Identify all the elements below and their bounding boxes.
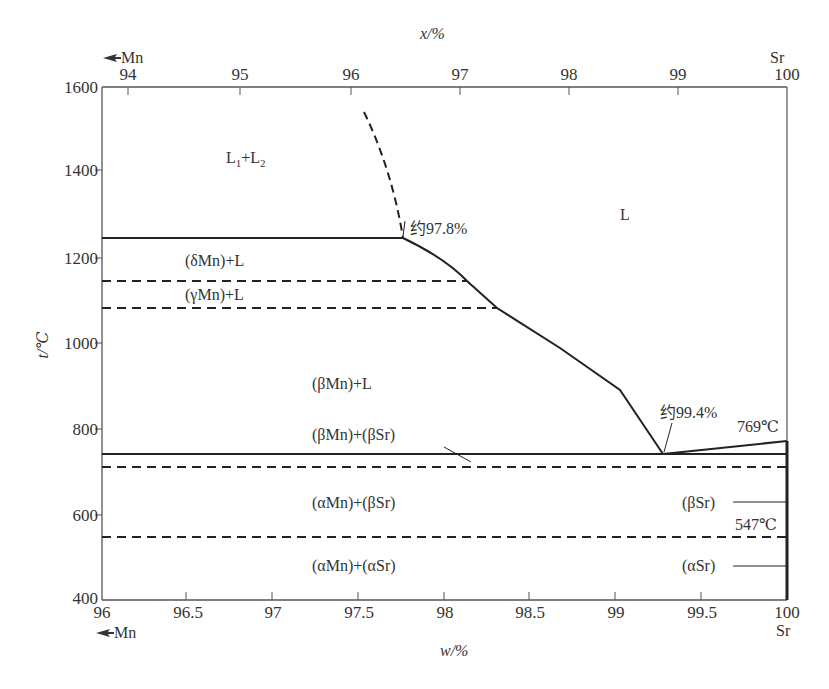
- svg-text:98: 98: [561, 65, 578, 84]
- bottom-axis-ticks: [186, 592, 701, 600]
- top-axis: x/% Mn Sr 94 95 96 97 98 99 100: [103, 25, 800, 84]
- leader-eutectic: [664, 423, 672, 452]
- mn-bottom-arrow: Mn: [96, 624, 136, 641]
- svg-text:1000: 1000: [64, 334, 98, 353]
- top-axis-title: x/%: [419, 25, 445, 42]
- y-axis: 1600 1400 1200 1000 800 600 400 t/℃: [34, 78, 98, 608]
- svg-text:99.5: 99.5: [687, 603, 717, 622]
- svg-text:800: 800: [73, 420, 99, 439]
- svg-text:94: 94: [120, 65, 138, 84]
- monotectic-annotation: 约97.8%: [410, 220, 467, 237]
- bottom-axis-title: w/%: [440, 642, 468, 659]
- arrow-left-icon: [96, 629, 114, 637]
- eutectic-annotation: 约99.4%: [660, 404, 717, 421]
- mn-top-label: Mn: [121, 49, 143, 66]
- sr-melting-annotation: 769℃: [737, 418, 779, 435]
- region-alpha-sr: (αSr): [682, 557, 715, 575]
- svg-text:98: 98: [437, 603, 454, 622]
- mn-bottom-label: Mn: [114, 624, 136, 641]
- region-gamma-mn-l: (γMn)+L: [185, 286, 244, 304]
- sr-transform-annotation: 547℃: [735, 516, 777, 533]
- y-axis-title: t/℃: [34, 332, 51, 359]
- svg-text:1600: 1600: [64, 78, 98, 97]
- region-labels: L1+L2 L (δMn)+L (γMn)+L (βMn)+L (βMn)+(β…: [185, 149, 715, 575]
- sr-top-label: Sr: [770, 49, 785, 66]
- miscibility-gap-curve: [364, 112, 403, 238]
- svg-text:96: 96: [343, 65, 360, 84]
- svg-text:1400: 1400: [64, 161, 98, 180]
- region-l1-l2: L1+L2: [226, 149, 266, 169]
- annotations: 约97.8% 约99.4% 769℃ 547℃: [410, 220, 779, 533]
- svg-text:100: 100: [774, 65, 800, 84]
- region-alpha-mn-alpha-sr: (αMn)+(αSr): [312, 557, 396, 575]
- sr-bottom-label: Sr: [776, 622, 791, 639]
- region-beta-mn-l: (βMn)+L: [312, 375, 372, 393]
- phase-diagram: x/% Mn Sr 94 95 96 97 98 99 100 1600 140…: [0, 0, 829, 689]
- arrow-left-icon: [103, 54, 121, 62]
- svg-text:99: 99: [608, 603, 625, 622]
- region-liquid: L: [620, 206, 630, 223]
- svg-text:97: 97: [452, 65, 470, 84]
- plot-frame: [102, 87, 787, 600]
- liquidus-sr-side: [663, 441, 787, 454]
- region-delta-mn-l: (δMn)+L: [185, 252, 244, 270]
- svg-text:1200: 1200: [64, 249, 98, 268]
- region-beta-mn-beta-sr: (βMn)+(βSr): [312, 426, 395, 444]
- svg-text:100: 100: [774, 603, 800, 622]
- top-axis-ticks: [128, 87, 678, 95]
- svg-text:96: 96: [94, 603, 111, 622]
- phase-boundaries: [102, 87, 787, 600]
- svg-text:97: 97: [265, 603, 283, 622]
- region-alpha-mn-beta-sr: (αMn)+(βSr): [312, 494, 395, 512]
- region-beta-sr: (βSr): [682, 494, 715, 512]
- svg-text:96.5: 96.5: [173, 603, 203, 622]
- svg-text:98.5: 98.5: [515, 603, 545, 622]
- mn-top-arrow: Mn: [103, 49, 143, 66]
- svg-text:600: 600: [73, 506, 99, 525]
- svg-text:97.5: 97.5: [344, 603, 374, 622]
- liquidus-curve: [403, 238, 663, 454]
- svg-text:95: 95: [232, 65, 249, 84]
- svg-text:99: 99: [670, 65, 687, 84]
- bottom-axis: 96 96.5 97 97.5 98 98.5 99 99.5 100 Mn S…: [94, 603, 800, 659]
